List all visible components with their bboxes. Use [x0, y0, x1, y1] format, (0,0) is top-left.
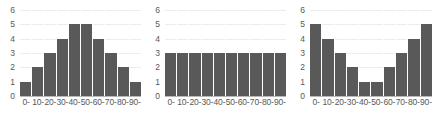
histogram-bar	[310, 24, 321, 96]
x-tick-label: 70-	[250, 98, 262, 107]
histogram-bar-cell	[202, 10, 214, 96]
x-tick-label: 60-	[383, 98, 395, 107]
histogram-bar-cell	[310, 10, 322, 96]
y-tick-label: 6	[300, 6, 305, 15]
histogram-bar-cell	[69, 10, 81, 96]
y-tick-label: 6	[10, 6, 15, 15]
histogram-bar	[384, 67, 395, 96]
histogram-bar-cell	[396, 10, 408, 96]
x-tick-label: 0-	[165, 98, 177, 107]
x-tick-label: 10-	[322, 98, 334, 107]
histogram-chart-3: 0123456 0-10-20-30-40-50-60-70-80-90-	[290, 0, 436, 125]
x-tick-label: 30-	[347, 98, 359, 107]
y-tick-label: 3	[10, 49, 15, 58]
x-tick-label: 70-	[105, 98, 117, 107]
x-axis-labels-2: 0-10-20-30-40-50-60-70-80-90-	[165, 98, 286, 107]
histogram-bar-cell	[421, 10, 432, 96]
y-tick-label: 3	[300, 49, 305, 58]
x-axis-labels-3: 0-10-20-30-40-50-60-70-80-90-	[310, 98, 432, 107]
x-tick-label: 30-	[201, 98, 213, 107]
plot-area-2	[165, 10, 286, 96]
y-tick-label: 5	[300, 20, 305, 29]
histogram-bar	[275, 53, 286, 96]
x-axis-labels-1: 0-10-20-30-40-50-60-70-80-90-	[20, 98, 141, 107]
y-tick-label: 2	[155, 63, 160, 72]
histogram-bar	[359, 82, 370, 96]
histogram-bar-cell	[275, 10, 286, 96]
histogram-chart-1: 0123456 0-10-20-30-40-50-60-70-80-90-	[0, 0, 145, 125]
x-tick-label: 20-	[334, 98, 346, 107]
histogram-bar	[118, 67, 129, 96]
histogram-chart-2: 0123456 0-10-20-30-40-50-60-70-80-90-	[145, 0, 290, 125]
histogram-bar	[105, 53, 116, 96]
histogram-bar	[214, 53, 225, 96]
bars-3	[310, 10, 432, 96]
histogram-bar-cell	[250, 10, 262, 96]
histogram-bar	[32, 67, 43, 96]
y-tick-label: 5	[10, 20, 15, 29]
histogram-bar	[20, 82, 31, 96]
y-axis-labels-3: 0123456	[290, 10, 308, 96]
x-tick-label: 40-	[359, 98, 371, 107]
x-tick-label: 60-	[238, 98, 250, 107]
histogram-bar	[69, 24, 80, 96]
histogram-bar-cell	[20, 10, 32, 96]
histogram-bar	[371, 82, 382, 96]
histogram-panel-group: 0123456 0-10-20-30-40-50-60-70-80-90- 01…	[0, 0, 436, 125]
y-tick-label: 4	[300, 34, 305, 43]
y-tick-label: 5	[155, 20, 160, 29]
histogram-bar-cell	[118, 10, 130, 96]
histogram-bar-cell	[165, 10, 177, 96]
histogram-bar-cell	[359, 10, 371, 96]
x-tick-label: 80-	[117, 98, 129, 107]
histogram-bar-cell	[408, 10, 420, 96]
y-tick-label: 0	[155, 92, 160, 101]
histogram-bar	[93, 39, 104, 96]
histogram-bar-cell	[226, 10, 238, 96]
y-axis-labels-2: 0123456	[145, 10, 163, 96]
histogram-bar	[202, 53, 213, 96]
histogram-bar-cell	[189, 10, 201, 96]
x-tick-label: 40-	[68, 98, 80, 107]
x-tick-label: 0-	[20, 98, 32, 107]
bars-2	[165, 10, 286, 96]
y-tick-label: 4	[155, 34, 160, 43]
x-tick-label: 40-	[213, 98, 225, 107]
bars-1	[20, 10, 141, 96]
plot-area-1	[20, 10, 141, 96]
histogram-bar-cell	[347, 10, 359, 96]
x-tick-label: 90-	[129, 98, 141, 107]
y-tick-label: 1	[155, 77, 160, 86]
x-tick-label: 90-	[420, 98, 432, 107]
histogram-bar	[165, 53, 176, 96]
y-tick-label: 3	[155, 49, 160, 58]
histogram-bar	[238, 53, 249, 96]
y-tick-label: 4	[10, 34, 15, 43]
x-tick-label: 50-	[371, 98, 383, 107]
histogram-bar-cell	[335, 10, 347, 96]
histogram-bar-cell	[57, 10, 69, 96]
histogram-bar-cell	[214, 10, 226, 96]
histogram-bar	[408, 39, 419, 96]
histogram-bar-cell	[130, 10, 141, 96]
histogram-bar-cell	[177, 10, 189, 96]
histogram-bar	[347, 67, 358, 96]
histogram-bar-cell	[81, 10, 93, 96]
histogram-bar-cell	[44, 10, 56, 96]
histogram-bar-cell	[322, 10, 334, 96]
histogram-bar	[335, 53, 346, 96]
x-tick-label: 0-	[310, 98, 322, 107]
histogram-bar	[130, 82, 141, 96]
histogram-bar	[177, 53, 188, 96]
y-tick-label: 6	[155, 6, 160, 15]
histogram-bar-cell	[93, 10, 105, 96]
plot-area-3	[310, 10, 432, 96]
x-tick-label: 90-	[274, 98, 286, 107]
y-tick-label: 1	[10, 77, 15, 86]
histogram-bar-cell	[263, 10, 275, 96]
histogram-bar	[396, 53, 407, 96]
x-tick-label: 10-	[32, 98, 44, 107]
y-tick-label: 0	[10, 92, 15, 101]
histogram-bar-cell	[371, 10, 383, 96]
x-tick-label: 10-	[177, 98, 189, 107]
